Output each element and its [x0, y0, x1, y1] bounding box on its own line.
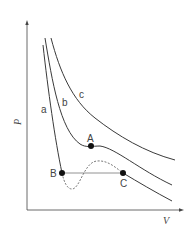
isotherm-a-gas	[123, 173, 172, 201]
curve-label-a: a	[41, 104, 47, 115]
point-label-b: B	[50, 168, 57, 179]
y-axis-arrow-icon	[25, 20, 28, 25]
isotherm-c	[51, 38, 175, 160]
curve-label-c: c	[79, 89, 84, 100]
curve-label-b: b	[62, 97, 68, 108]
point-label-a: A	[87, 133, 94, 144]
isotherm-a-vdw-loop	[62, 161, 123, 189]
y-axis-label: P	[12, 119, 23, 126]
point-c	[120, 170, 126, 176]
axes	[25, 20, 184, 212]
x-axis-label: V	[163, 215, 171, 226]
point-b	[59, 170, 65, 176]
pv-diagram: P V a b c A B C	[0, 0, 192, 229]
x-axis-arrow-icon	[179, 208, 184, 211]
point-label-c: C	[120, 178, 127, 189]
